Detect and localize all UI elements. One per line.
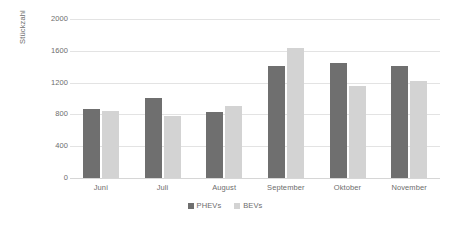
bar-chart: Stückzahl 0400800120016002000 JuniJuliAu… bbox=[0, 0, 450, 225]
x-axis-tick-label: Juli bbox=[132, 183, 194, 192]
gridline bbox=[70, 178, 440, 179]
y-axis-tick-label: 0 bbox=[38, 174, 68, 182]
bar bbox=[287, 48, 304, 178]
legend-label: BEVs bbox=[243, 201, 262, 210]
plot-area bbox=[70, 19, 440, 178]
y-axis-title: Stückzahl bbox=[18, 0, 32, 62]
chart-legend: PHEVsBEVs bbox=[0, 201, 450, 210]
y-axis-tick-label: 1200 bbox=[38, 79, 68, 87]
legend-item[interactable]: PHEVs bbox=[188, 201, 222, 210]
bar bbox=[145, 98, 162, 178]
y-axis-tick-label: 2000 bbox=[38, 15, 68, 23]
legend-swatch-icon bbox=[234, 203, 240, 209]
gridline bbox=[70, 83, 440, 84]
bar bbox=[349, 86, 366, 178]
y-axis-tick-label: 400 bbox=[38, 142, 68, 150]
bar bbox=[83, 109, 100, 178]
gridline bbox=[70, 19, 440, 20]
y-axis-tick-label: 800 bbox=[38, 110, 68, 118]
x-axis-tick-label: September bbox=[255, 183, 317, 192]
bar-group bbox=[145, 19, 181, 178]
bar-group bbox=[83, 19, 119, 178]
y-axis-title-label: Stückzahl bbox=[18, 10, 27, 44]
legend-swatch-icon bbox=[188, 203, 194, 209]
bar bbox=[225, 106, 242, 178]
x-axis-tick-label: November bbox=[378, 183, 440, 192]
x-axis-tick-label: Oktober bbox=[317, 183, 379, 192]
gridline bbox=[70, 51, 440, 52]
bar-group bbox=[268, 19, 304, 178]
bar bbox=[102, 111, 119, 178]
y-axis-tick-label: 1600 bbox=[38, 47, 68, 55]
legend-label: PHEVs bbox=[197, 201, 222, 210]
bar bbox=[410, 81, 427, 178]
bar-group bbox=[206, 19, 242, 178]
bar bbox=[164, 116, 181, 178]
gridline bbox=[70, 146, 440, 147]
legend-item[interactable]: BEVs bbox=[234, 201, 262, 210]
x-axis-tick-label: Juni bbox=[70, 183, 132, 192]
x-axis-tick-label: August bbox=[193, 183, 255, 192]
bar bbox=[268, 66, 285, 178]
bar bbox=[391, 66, 408, 178]
bar-group bbox=[391, 19, 427, 178]
bar-group bbox=[330, 19, 366, 178]
gridline bbox=[70, 114, 440, 115]
bar bbox=[206, 112, 223, 178]
bar bbox=[330, 63, 347, 178]
